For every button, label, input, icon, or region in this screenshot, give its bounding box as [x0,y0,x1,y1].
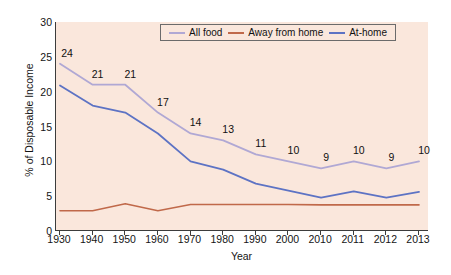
data-label-2012: 9 [388,152,394,163]
data-label-1960: 17 [157,96,169,107]
chart-lines [56,22,429,231]
x-tick-label-2011: 2011 [341,234,364,245]
x-tick-label-2012: 2012 [374,234,397,245]
data-label-2011: 10 [353,145,365,156]
data-label-2010: 9 [323,152,329,163]
x-tick-label-2013: 2013 [406,234,429,245]
legend-label-all-food: All food [189,27,222,38]
y-tick-label-30: 30 [26,17,52,28]
legend-entry-all-food[interactable]: All food [169,27,222,38]
data-label-1930: 24 [61,48,73,59]
x-tick-label-1960: 1960 [145,234,168,245]
legend-label-away-from-home: Away from home [248,27,323,38]
x-tick-label-1990: 1990 [243,234,266,245]
data-label-2000: 10 [288,145,300,156]
x-tick-label-2000: 2000 [276,234,299,245]
legend-swatch-all-food [169,32,185,34]
data-label-1950: 21 [124,68,136,79]
series-line-at-home [60,85,419,197]
x-tick-label-1970: 1970 [178,234,201,245]
x-axis-ticks: 1930194019501960197019801990200020102011… [55,234,428,250]
data-label-1980: 13 [222,124,234,135]
legend-entry-at-home[interactable]: At-home [329,27,387,38]
y-axis-title: % of Disposable Income [23,30,35,210]
x-tick-label-1930: 1930 [47,234,70,245]
data-label-2013: 10 [418,145,430,156]
x-tick-label-1950: 1950 [113,234,136,245]
series-line-away-from-home [60,204,419,211]
x-tick-label-1980: 1980 [210,234,233,245]
series-line-all-food [60,64,419,169]
data-label-1970: 14 [190,117,202,128]
x-axis-title: Year [55,250,428,262]
data-label-1940: 21 [92,68,104,79]
legend-entry-away-from-home[interactable]: Away from home [228,27,323,38]
chart-legend: All food Away from home At-home [160,24,396,41]
x-tick-label-1940: 1940 [80,234,103,245]
x-tick-label-2010: 2010 [308,234,331,245]
legend-swatch-away-from-home [228,32,244,34]
legend-label-at-home: At-home [349,27,387,38]
data-label-1990: 11 [255,138,266,149]
chart-figure: 30 25 20 15 10 5 0 % of Disposable Incom… [0,0,451,275]
plot-area: 2421211714131110910910 [55,22,428,231]
legend-swatch-at-home [329,32,345,34]
